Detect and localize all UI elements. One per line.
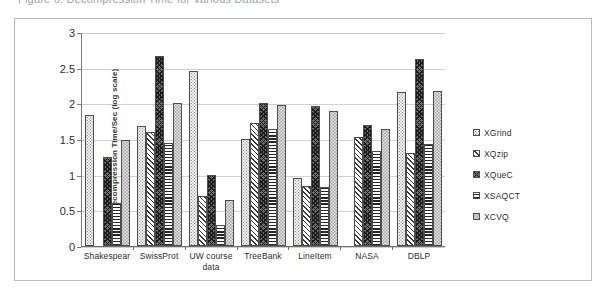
bar[interactable] bbox=[397, 92, 406, 246]
bar[interactable] bbox=[415, 59, 424, 246]
x-axis-label: UW course data bbox=[185, 251, 237, 273]
bar-group bbox=[393, 33, 445, 246]
bar[interactable] bbox=[363, 125, 372, 246]
x-tick-mark bbox=[133, 246, 134, 250]
bar[interactable] bbox=[381, 129, 390, 246]
bar[interactable] bbox=[424, 144, 433, 246]
bar-group bbox=[186, 33, 238, 246]
y-tick-label: 0.5 bbox=[60, 205, 75, 217]
bar[interactable] bbox=[241, 139, 250, 246]
legend-item[interactable]: XSAQCT bbox=[473, 185, 583, 206]
chart-frame: 00.511.522.53 Decompression Time/Sec (lo… bbox=[14, 18, 592, 281]
bar[interactable] bbox=[311, 106, 320, 246]
bar-group bbox=[238, 33, 290, 246]
bar[interactable] bbox=[225, 200, 234, 246]
bar[interactable] bbox=[320, 187, 329, 246]
bar[interactable] bbox=[189, 71, 198, 246]
chart-legend: XGrindXQzipXQueCXSAQCTXCVQ bbox=[473, 122, 583, 227]
bar[interactable] bbox=[198, 196, 207, 246]
bar[interactable] bbox=[302, 186, 311, 246]
bar-group bbox=[134, 33, 186, 246]
y-tick-label: 1 bbox=[69, 170, 75, 182]
bar[interactable] bbox=[372, 151, 381, 246]
legend-swatch-icon bbox=[473, 213, 480, 220]
x-tick-mark bbox=[340, 246, 341, 250]
bar[interactable] bbox=[173, 103, 182, 246]
x-axis-label: LineItem bbox=[289, 251, 341, 273]
x-axis-label: NASA bbox=[341, 251, 393, 273]
legend-item[interactable]: XGrind bbox=[473, 122, 583, 143]
x-tick-mark bbox=[237, 246, 238, 250]
bar-group bbox=[289, 33, 341, 246]
bar[interactable] bbox=[268, 129, 277, 246]
y-tick-mark bbox=[77, 247, 81, 248]
bar[interactable] bbox=[121, 140, 130, 247]
legend-label: XCVQ bbox=[484, 212, 509, 222]
x-axis-label: Shakespear bbox=[81, 251, 133, 273]
x-axis-label: DBLP bbox=[393, 251, 445, 273]
bar-group bbox=[82, 33, 134, 246]
bar-groups bbox=[82, 33, 445, 246]
bar[interactable] bbox=[155, 56, 164, 246]
bar[interactable] bbox=[293, 178, 302, 246]
x-axis-label: SwissProt bbox=[133, 251, 185, 273]
y-tick-label: 2 bbox=[69, 98, 75, 110]
gridline bbox=[81, 247, 445, 248]
x-axis-line bbox=[81, 246, 445, 247]
plot-area: 00.511.522.53 Decompression Time/Sec (lo… bbox=[81, 33, 445, 247]
x-tick-mark bbox=[185, 246, 186, 250]
x-tick-mark bbox=[392, 246, 393, 250]
bar[interactable] bbox=[354, 137, 363, 246]
legend-label: XQzip bbox=[484, 149, 508, 159]
x-axis-label: TreeBank bbox=[237, 251, 289, 273]
bar[interactable] bbox=[146, 132, 155, 246]
bar[interactable] bbox=[216, 225, 225, 246]
bar[interactable] bbox=[207, 175, 216, 246]
bar[interactable] bbox=[259, 103, 268, 246]
legend-swatch-icon bbox=[473, 150, 480, 157]
bar[interactable] bbox=[85, 115, 94, 246]
figure-caption: Figure 6. Decompression Time for Various… bbox=[18, 0, 279, 6]
bar[interactable] bbox=[103, 157, 112, 246]
bar[interactable] bbox=[406, 153, 415, 246]
x-tick-mark bbox=[288, 246, 289, 250]
legend-item[interactable]: XCVQ bbox=[473, 206, 583, 227]
legend-item[interactable]: XQzip bbox=[473, 143, 583, 164]
bar[interactable] bbox=[164, 143, 173, 246]
bar-group bbox=[341, 33, 393, 246]
bar[interactable] bbox=[277, 105, 286, 246]
y-tick-label: 2.5 bbox=[60, 63, 75, 75]
legend-swatch-icon bbox=[473, 192, 480, 199]
bar[interactable] bbox=[250, 123, 259, 246]
legend-swatch-icon bbox=[473, 129, 480, 136]
bar[interactable] bbox=[137, 126, 146, 246]
legend-label: XSAQCT bbox=[484, 191, 520, 201]
y-tick-label: 0 bbox=[69, 241, 75, 253]
legend-swatch-icon bbox=[473, 171, 480, 178]
bar[interactable] bbox=[329, 111, 338, 246]
bar[interactable] bbox=[112, 203, 121, 246]
x-axis-labels: ShakespearSwissProtUW course dataTreeBan… bbox=[81, 251, 445, 273]
legend-label: XQueC bbox=[484, 170, 513, 180]
legend-label: XGrind bbox=[484, 128, 512, 138]
legend-item[interactable]: XQueC bbox=[473, 164, 583, 185]
y-tick-label: 3 bbox=[69, 27, 75, 39]
y-tick-label: 1.5 bbox=[60, 134, 75, 146]
bar[interactable] bbox=[433, 91, 442, 246]
